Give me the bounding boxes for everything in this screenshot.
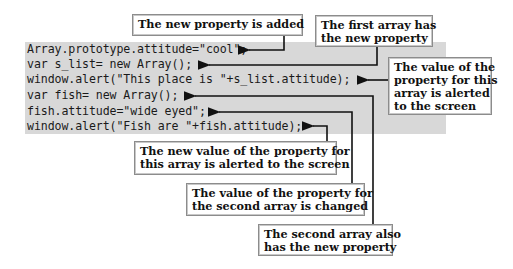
callout-first-array-has-property: The first array has the new property	[315, 15, 433, 47]
callout-second-value-changed: The value of the property for the second…	[186, 183, 365, 216]
callout-second-array-has-property: The second array also has the new proper…	[258, 224, 393, 256]
callout-first-value-alerted: The value of the property for this array…	[388, 57, 492, 115]
arrow-to-line-2	[209, 46, 377, 65]
callout-new-property-added: The new property is added	[132, 14, 303, 36]
callout-new-value-alerted: The new value of the property for this a…	[134, 141, 337, 175]
connector-arrows	[0, 0, 513, 269]
arrow-to-line-6	[313, 126, 327, 141]
arrow-to-line-1	[249, 35, 284, 50]
